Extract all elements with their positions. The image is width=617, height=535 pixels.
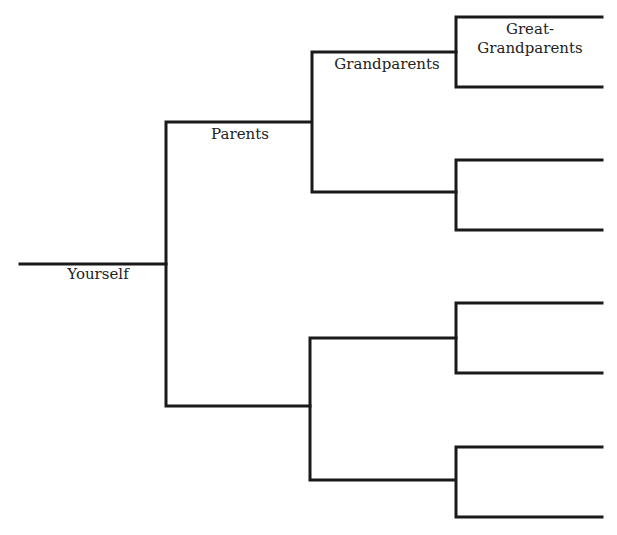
label-grandparents: Grandparents	[322, 55, 452, 74]
bracket-parents	[166, 122, 311, 406]
bracket-grandparents-maternal	[310, 338, 456, 480]
bracket-great-grandparents-2	[456, 160, 602, 230]
label-yourself: Yourself	[58, 265, 138, 284]
label-parents: Parents	[200, 125, 280, 144]
bracket-great-grandparents-4	[456, 447, 602, 517]
label-great-grandparents-line1: Great-	[470, 20, 590, 39]
bracket-great-grandparents-3	[456, 303, 602, 373]
label-great-grandparents-line2: Grandparents	[470, 39, 590, 58]
